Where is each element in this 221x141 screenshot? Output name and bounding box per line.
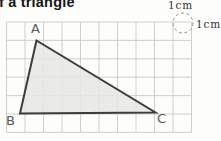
unit-square-highlight-circle — [173, 13, 193, 33]
vertex-label-a: A — [31, 22, 40, 35]
unit-label-top: 1cm — [168, 0, 193, 11]
vertex-label-c: C — [157, 112, 166, 125]
vertex-label-b: B — [6, 114, 15, 127]
worksheet-page: f a triangle A B C 1cm 1cm — [0, 0, 221, 141]
unit-label-right: 1cm — [196, 19, 221, 30]
